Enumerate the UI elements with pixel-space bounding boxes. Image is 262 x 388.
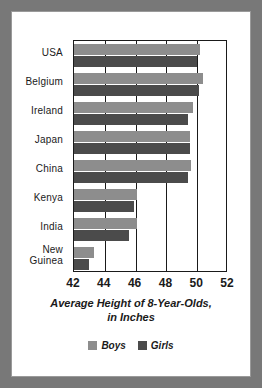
bar-china-girls: [74, 172, 188, 183]
bar-india-girls: [74, 230, 129, 241]
chart-title: Average Height of 8-Year-Olds, in Inches: [24, 296, 238, 324]
x-tick-label-46: 46: [123, 276, 147, 290]
bar-group: [74, 102, 226, 131]
category-label-line1: Kenya: [34, 192, 63, 203]
bar-japan-girls: [74, 143, 190, 154]
bar-group: [74, 131, 226, 160]
legend-swatch-boys: [88, 341, 97, 350]
bar-ireland-boys: [74, 102, 193, 113]
category-label-line1: Japan: [35, 134, 63, 145]
category-label-line2: Guinea: [0, 255, 63, 266]
category-label-china: China: [0, 163, 63, 174]
category-label-line1: China: [36, 163, 63, 174]
bar-kenya-boys: [74, 189, 137, 200]
category-label-india: India: [0, 221, 63, 232]
bar-japan-boys: [74, 131, 190, 142]
legend-label-boys: Boys: [101, 340, 125, 351]
x-tick-label-44: 44: [92, 276, 116, 290]
bar-group: [74, 218, 226, 247]
category-label-new: NewGuinea: [0, 244, 63, 266]
category-label-line1: USA: [42, 47, 63, 58]
bar-belgium-girls: [74, 85, 199, 96]
x-tick-label-50: 50: [184, 276, 208, 290]
bar-kenya-girls: [74, 201, 134, 212]
bar-group: [74, 44, 226, 73]
category-label-line1: India: [40, 221, 63, 232]
bar-group: [74, 189, 226, 218]
category-label-ireland: Ireland: [0, 105, 63, 116]
bar-group: [74, 247, 226, 276]
bar-new-guinea-boys: [74, 247, 94, 258]
value-axis-labels: 424446485052: [0, 276, 262, 292]
bar-group: [74, 73, 226, 102]
legend-item-girls[interactable]: Girls: [138, 340, 174, 351]
x-tick-label-48: 48: [153, 276, 177, 290]
bar-new-guinea-girls: [74, 259, 89, 270]
category-label-belgium: Belgium: [0, 76, 63, 87]
bar-groups: [74, 41, 226, 271]
category-label-line1: New: [42, 244, 63, 255]
legend-item-boys[interactable]: Boys: [88, 340, 125, 351]
category-label-japan: Japan: [0, 134, 63, 145]
legend-label-girls: Girls: [151, 340, 174, 351]
bar-china-boys: [74, 160, 191, 171]
x-tick-label-42: 42: [61, 276, 85, 290]
bar-chart: USABelgiumIrelandJapanChinaKenyaIndiaNew…: [0, 0, 262, 388]
category-label-usa: USA: [0, 47, 63, 58]
x-tick-label-52: 52: [215, 276, 239, 290]
bar-india-boys: [74, 218, 137, 229]
category-axis-labels: USABelgiumIrelandJapanChinaKenyaIndiaNew…: [6, 40, 69, 272]
bar-group: [74, 160, 226, 189]
plot-area: [73, 40, 227, 272]
chart-title-line1: Average Height of 8-Year-Olds,: [50, 297, 212, 309]
category-label-line1: Belgium: [25, 76, 63, 87]
category-label-line1: Ireland: [31, 105, 63, 116]
chart-title-line2: in Inches: [24, 310, 238, 324]
bar-ireland-girls: [74, 114, 188, 125]
bar-usa-girls: [74, 56, 197, 67]
chart-legend: BoysGirls: [0, 340, 262, 351]
bar-belgium-boys: [74, 73, 203, 84]
bar-usa-boys: [74, 44, 200, 55]
category-label-kenya: Kenya: [0, 192, 63, 203]
chart-page: USABelgiumIrelandJapanChinaKenyaIndiaNew…: [0, 0, 262, 388]
legend-swatch-girls: [138, 341, 147, 350]
